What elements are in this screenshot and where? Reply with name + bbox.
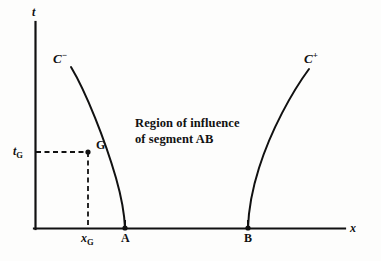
curve-label-c-minus: C− xyxy=(53,52,67,65)
region-caption-line-2: of segment AB xyxy=(135,131,240,147)
t-axis-label: t xyxy=(32,6,35,18)
curve-label-c-plus-sign: + xyxy=(313,50,318,60)
point-label-b: B xyxy=(244,232,252,244)
point-marker-g xyxy=(85,149,90,154)
curve-label-c-plus-base: C xyxy=(304,51,313,66)
region-caption-line-1: Region of influence xyxy=(135,115,240,131)
curve-c-plus xyxy=(248,69,309,228)
tick-label-x-g: xG xyxy=(81,232,94,244)
curve-label-c-minus-sign: − xyxy=(62,50,67,60)
tick-label-t-g-sub: G xyxy=(16,150,23,160)
point-marker-b xyxy=(245,225,250,230)
point-label-g: G xyxy=(96,139,105,151)
curve-label-c-plus: C+ xyxy=(304,52,318,65)
curve-label-c-minus-base: C xyxy=(53,51,62,66)
region-of-influence-caption: Region of influence of segment AB xyxy=(135,115,240,147)
x-axis-label: x xyxy=(350,222,356,234)
tick-label-t-g: tG xyxy=(13,145,23,157)
point-label-a: A xyxy=(121,232,130,244)
tick-label-x-g-sub: G xyxy=(87,237,94,247)
point-marker-a xyxy=(122,225,127,230)
diagram-canvas: t x C− C+ A B G tG xG Region of influenc… xyxy=(0,0,381,261)
